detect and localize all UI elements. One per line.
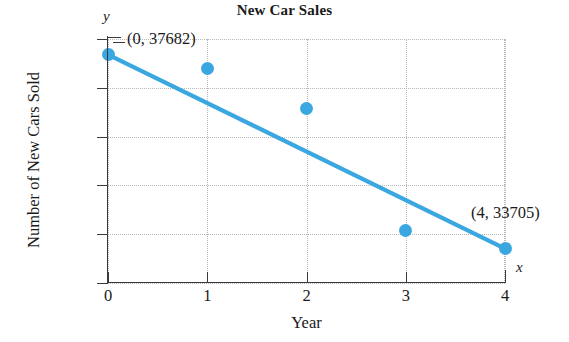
annotation-start-point: (0, 37682) — [127, 29, 196, 49]
x-axis-tick-label: 4 — [490, 286, 520, 306]
x-axis-tick-label: 0 — [93, 286, 123, 306]
y-axis-top-cap — [108, 37, 121, 38]
annotation-end-point: (4, 33705) — [471, 203, 540, 223]
x-axis-tick-label: 3 — [391, 286, 421, 306]
x-axis-tick — [108, 272, 109, 283]
x-axis-tick-label: 1 — [192, 286, 222, 306]
y-axis-title: Number of New Cars Sold — [24, 30, 44, 290]
y-axis-spine — [107, 36, 108, 284]
y-axis-letter: y — [103, 8, 110, 25]
data-point — [201, 62, 214, 75]
x-axis-letter: x — [516, 259, 523, 276]
y-axis-tick — [97, 137, 108, 138]
gridline-vertical — [307, 39, 308, 283]
data-point — [399, 224, 412, 237]
plot-area — [108, 39, 505, 283]
gridline-horizontal — [108, 283, 505, 284]
y-axis-tick — [97, 39, 108, 40]
y-axis-tick — [97, 283, 108, 284]
y-axis-tick — [97, 88, 108, 89]
annotation-leader-line — [113, 42, 125, 43]
y-axis-tick — [97, 185, 108, 186]
chart-figure: New Car Sales Number of New Cars Sold Ye… — [0, 0, 569, 342]
data-point — [102, 48, 115, 61]
x-axis-tick-label: 2 — [292, 286, 322, 306]
x-axis-title: Year — [108, 313, 505, 333]
data-point — [300, 102, 313, 115]
x-axis-tick — [406, 272, 407, 283]
x-axis-tick — [307, 272, 308, 283]
x-axis-tick — [207, 272, 208, 283]
y-axis-tick — [97, 234, 108, 235]
data-point — [499, 242, 512, 255]
x-axis-tick — [505, 272, 506, 283]
gridline-vertical — [406, 39, 407, 283]
gridline-vertical — [108, 39, 109, 283]
gridline-vertical — [207, 39, 208, 283]
chart-title: New Car Sales — [0, 2, 569, 19]
